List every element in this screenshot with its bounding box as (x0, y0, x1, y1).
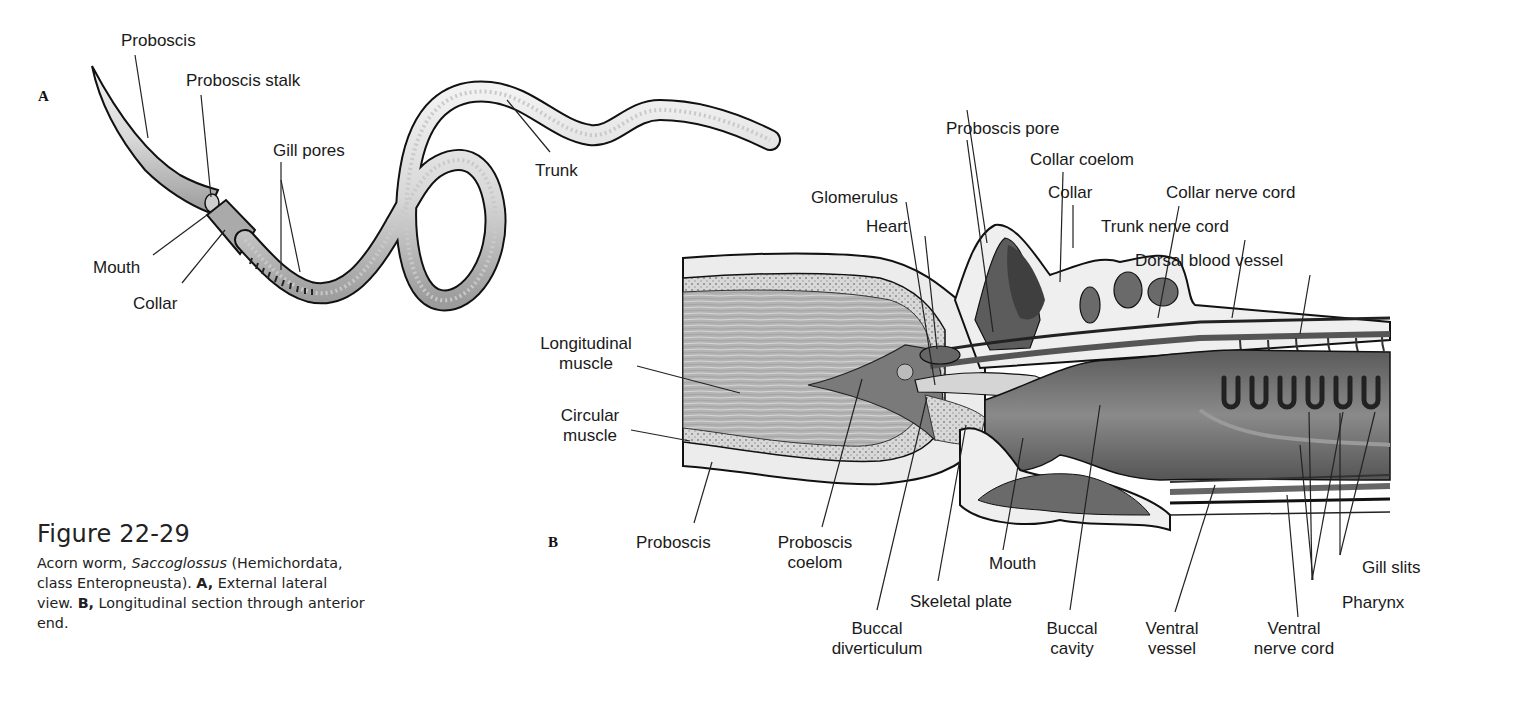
figure-caption: Acorn worm, Saccoglossus (Hemichordata, … (37, 553, 367, 633)
label-b-proboscis: Proboscis (636, 533, 711, 553)
label-b-proboscis-coelom: Proboscis coelom (768, 533, 862, 573)
label-b-collar-nerve-cord: Collar nerve cord (1166, 183, 1295, 203)
label-b-circular-muscle: Circular muscle (552, 406, 628, 446)
worm-external-view (92, 55, 770, 300)
label-a-proboscis: Proboscis (121, 31, 196, 51)
label-b-ventral-vessel: Ventral vessel (1132, 619, 1212, 659)
heart-shape (920, 346, 960, 364)
label-b-glomerulus: Glomerulus (811, 188, 898, 208)
label-b-heart: Heart (866, 217, 908, 237)
label-b-gill-slits: Gill slits (1362, 558, 1421, 578)
label-b-trunk-nerve-cord: Trunk nerve cord (1101, 217, 1229, 237)
label-a-proboscis-stalk: Proboscis stalk (186, 71, 300, 91)
label-b-collar-coelom: Collar coelom (1030, 150, 1134, 170)
caption-part-a-marker: A, (196, 575, 213, 591)
glomerulus-shape (897, 364, 913, 380)
figure-canvas: A B Proboscis Proboscis stalk Gill pores… (0, 0, 1517, 709)
ventral-nerve-cord-line (1170, 499, 1390, 503)
label-b-mouth: Mouth (989, 554, 1036, 574)
label-b-pharynx: Pharynx (1342, 593, 1404, 613)
label-b-buccal-diverticulum: Buccal diverticulum (822, 619, 932, 659)
label-b-skeletal-plate: Skeletal plate (910, 592, 1012, 612)
label-b-dorsal-blood-vessel: Dorsal blood vessel (1135, 251, 1283, 271)
label-b-longitudinal-muscle: Longitudinal muscle (528, 334, 644, 374)
label-a-collar: Collar (133, 294, 177, 314)
caption-genus: Saccoglossus (131, 555, 227, 571)
label-a-trunk: Trunk (535, 161, 578, 181)
panel-a-letter: A (38, 88, 49, 105)
label-b-buccal-cavity: Buccal cavity (1040, 619, 1104, 659)
panel-b-letter: B (548, 534, 558, 551)
label-b-collar: Collar (1048, 183, 1092, 203)
pharynx-cavity (985, 350, 1390, 480)
figure-number: Figure 22-29 (37, 520, 190, 548)
label-b-ventral-nerve-cord: Ventral nerve cord (1242, 619, 1346, 659)
label-a-mouth: Mouth (93, 258, 140, 278)
caption-part-b-marker: B, (78, 595, 94, 611)
label-a-gill-pores: Gill pores (273, 141, 345, 161)
label-b-proboscis-pore: Proboscis pore (946, 119, 1059, 139)
